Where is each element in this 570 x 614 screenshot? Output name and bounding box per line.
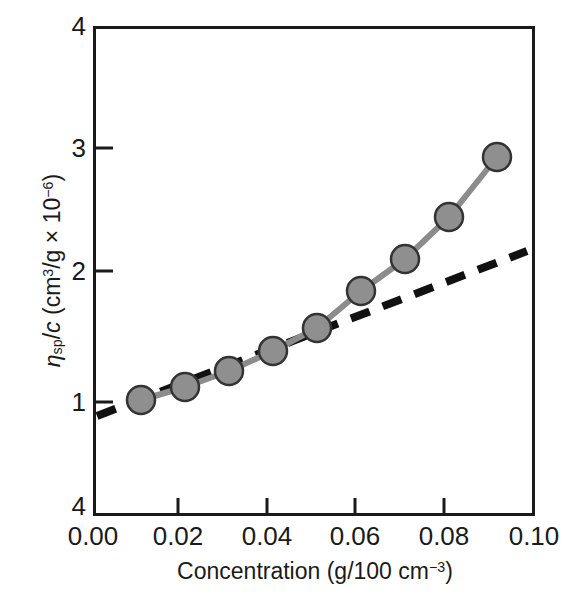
x-tick-label-010: 0.10	[489, 523, 570, 549]
y-axis-title-sub: sp	[49, 339, 65, 354]
y-axis-title-units-open: (cm	[39, 277, 65, 322]
x-tick-label-004: 0.04	[222, 523, 312, 549]
y-axis-title-slash: /	[39, 333, 65, 339]
y-axis-title: ηsp/c (cm3/g × 10−6)	[39, 101, 66, 441]
y-axis-title-eta: η	[39, 354, 65, 367]
x-tick-label-002: 0.02	[133, 523, 223, 549]
y-axis-title-units-sup3: 3	[40, 269, 56, 277]
y-axis-title-c: c	[39, 321, 65, 333]
x-axis-title-main: Concentration (g/100 cm	[177, 558, 429, 584]
x-tick-label-000: 0.00	[48, 523, 138, 549]
y-axis-title-units-close: )	[39, 174, 65, 182]
x-axis-title-close: )	[445, 558, 453, 584]
plot-area	[93, 26, 535, 516]
y-tick-label-4-top: 4	[52, 13, 86, 39]
chart-figure: 4 3 2 1 4 0.00 0.02 0.04 0.06 0.08 0.10 …	[0, 0, 570, 614]
x-tick-label-006: 0.06	[310, 523, 400, 549]
x-tick-label-008: 0.08	[399, 523, 489, 549]
x-axis-title-exponent: −3	[429, 559, 445, 575]
y-axis-title-units-perg: /g × 10	[39, 198, 65, 269]
y-tick-label-bottom: 4	[52, 493, 86, 519]
x-axis-title: Concentration (g/100 cm−3)	[85, 558, 545, 585]
y-axis-title-units-exp: −6	[40, 182, 56, 198]
